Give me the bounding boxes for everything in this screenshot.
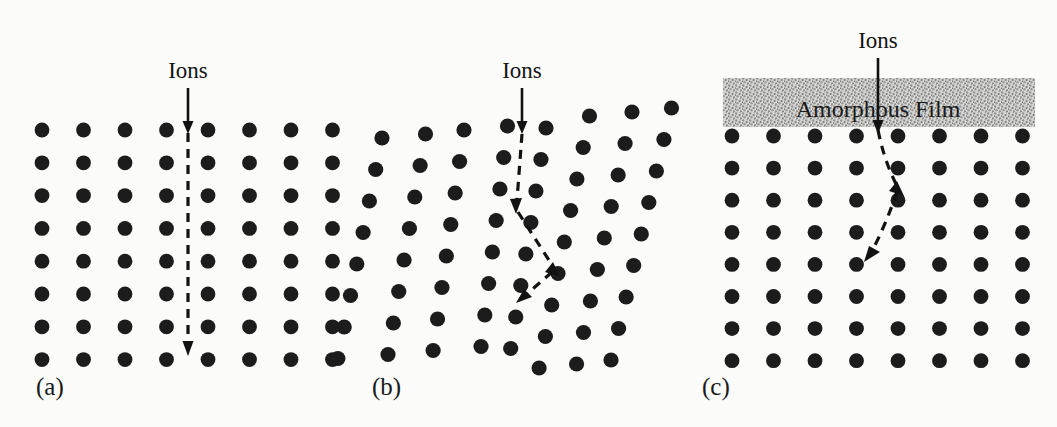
lattice-atom: [159, 319, 174, 334]
lattice-atom: [391, 284, 406, 299]
lattice-atom: [604, 199, 619, 214]
lattice-atom: [808, 193, 823, 208]
lattice-atom: [76, 287, 91, 302]
lattice-atom: [808, 321, 823, 336]
lattice-atom: [808, 257, 823, 272]
lattice-atom: [725, 161, 740, 176]
lattice-atom: [118, 319, 133, 334]
lattice-atom: [557, 234, 572, 249]
lattice-atom: [396, 252, 411, 267]
lattice-atom: [576, 140, 591, 155]
lattice-atom: [532, 360, 547, 375]
lattice-atom: [284, 221, 299, 236]
lattice-atom: [974, 321, 989, 336]
lattice-atom: [489, 213, 504, 228]
lattice-atom: [448, 185, 463, 200]
lattice-atom: [284, 123, 299, 138]
lattice-atom: [118, 352, 133, 367]
lattice-atom: [766, 225, 781, 240]
lattice-atom: [649, 163, 664, 178]
lattice-atom: [443, 217, 458, 232]
lattice-atom: [35, 254, 50, 269]
lattice-atom: [932, 129, 947, 144]
lattice-atom: [503, 341, 518, 356]
lattice-atom: [325, 188, 340, 203]
lattice-atom: [76, 221, 91, 236]
lattice-atom: [808, 161, 823, 176]
lattice-atom: [891, 225, 906, 240]
lattice-atom: [330, 351, 345, 366]
lattice-atom: [201, 254, 216, 269]
lattice-atom: [1015, 353, 1030, 368]
lattice-atom: [624, 104, 639, 119]
lattice-atom: [533, 152, 548, 167]
lattice-atom: [538, 120, 553, 135]
lattice-atom: [974, 353, 989, 368]
lattice-atom: [974, 193, 989, 208]
lattice-atom: [35, 221, 50, 236]
lattice-atom: [576, 325, 591, 340]
lattice-atom: [485, 244, 500, 259]
lattice-atom: [430, 311, 445, 326]
lattice-atom: [284, 188, 299, 203]
lattice-atom: [386, 315, 401, 330]
lattice-atom: [118, 123, 133, 138]
lattice-atom: [159, 155, 174, 170]
lattice-atom: [159, 188, 174, 203]
lattice-atom: [492, 181, 507, 196]
lattice-atom: [76, 123, 91, 138]
lattice-atom: [473, 339, 488, 354]
lattice-atom: [1015, 129, 1030, 144]
lattice-atom: [325, 221, 340, 236]
lattice-atom: [891, 289, 906, 304]
lattice-atom: [242, 319, 257, 334]
lattice-atom: [1015, 257, 1030, 272]
lattice-atom: [118, 221, 133, 236]
lattice-atom: [508, 309, 523, 324]
lattice-atom: [808, 225, 823, 240]
lattice-atom: [76, 188, 91, 203]
lattice-atom: [242, 155, 257, 170]
lattice-atom: [356, 225, 371, 240]
lattice-atom: [590, 262, 605, 277]
lattice-atom: [368, 162, 383, 177]
lattice-atom: [932, 193, 947, 208]
lattice-atom: [35, 123, 50, 138]
panel-b-ions-label: Ions: [502, 58, 542, 83]
lattice-atom: [849, 257, 864, 272]
lattice-atom: [617, 136, 632, 151]
figure-canvas: Ions (a) Ions (b) Amorphous Fi: [0, 0, 1057, 427]
lattice-atom: [974, 161, 989, 176]
lattice-atom: [118, 254, 133, 269]
lattice-atom: [159, 352, 174, 367]
lattice-atom: [569, 171, 584, 186]
lattice-atom: [76, 352, 91, 367]
lattice-atom: [974, 225, 989, 240]
lattice-atom: [362, 193, 377, 208]
lattice-atom: [1015, 321, 1030, 336]
lattice-atom: [766, 353, 781, 368]
lattice-atom: [35, 188, 50, 203]
lattice-atom: [456, 122, 471, 137]
lattice-atom: [118, 188, 133, 203]
lattice-atom: [284, 287, 299, 302]
lattice-atom: [664, 100, 679, 115]
lattice-atom: [201, 352, 216, 367]
lattice-atom: [242, 221, 257, 236]
lattice-atom: [528, 183, 543, 198]
lattice-atom: [932, 225, 947, 240]
lattice-atom: [325, 254, 340, 269]
lattice-atom: [477, 307, 492, 322]
lattice-atom: [808, 353, 823, 368]
lattice-atom: [891, 129, 906, 144]
lattice-atom: [932, 289, 947, 304]
lattice-atom: [932, 257, 947, 272]
lattice-atom: [725, 257, 740, 272]
lattice-atom: [284, 254, 299, 269]
panel-c-ions-label: Ions: [858, 28, 898, 53]
lattice-atom: [932, 321, 947, 336]
lattice-atom: [766, 161, 781, 176]
lattice-atom: [766, 289, 781, 304]
lattice-atom: [374, 130, 389, 145]
lattice-atom: [603, 352, 618, 367]
